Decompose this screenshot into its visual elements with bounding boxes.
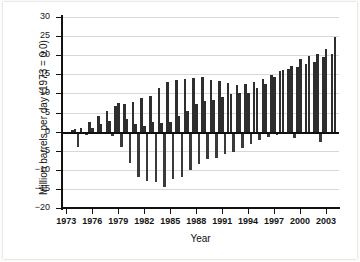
bar: [215, 132, 218, 158]
x-tick-mark: [300, 209, 301, 214]
y-tick-label: 10: [24, 88, 50, 97]
bar: [155, 132, 158, 183]
bar: [134, 124, 137, 132]
bar: [198, 132, 201, 164]
bar: [299, 59, 302, 131]
bar: [256, 88, 259, 131]
y-tick-label-wrap: 5: [22, 108, 50, 117]
bar: [137, 132, 140, 177]
bar: [163, 132, 166, 187]
x-tick-mark: [118, 209, 119, 214]
bar: [224, 132, 227, 155]
bar: [108, 121, 111, 132]
y-tick-label: 25: [24, 31, 50, 40]
zero-baseline: [62, 132, 339, 134]
y-tick-label: −20: [24, 203, 50, 212]
bar: [241, 132, 244, 148]
gridline: [62, 189, 339, 190]
bar: [129, 132, 132, 163]
gridline: [62, 17, 339, 18]
x-tick-mark: [170, 209, 171, 214]
y-tick-label: 15: [24, 69, 50, 78]
bar: [126, 119, 129, 132]
chart-figure: Million barrels per day (1973 = 0.0) 302…: [0, 0, 360, 262]
bar: [169, 122, 172, 132]
bar: [204, 101, 207, 131]
gridline: [62, 36, 339, 37]
bar: [247, 93, 250, 132]
bar: [160, 123, 163, 132]
bar: [100, 124, 103, 132]
bar: [206, 132, 209, 160]
bar: [212, 100, 215, 131]
bar: [230, 94, 233, 131]
bar: [195, 104, 198, 132]
bar: [334, 37, 337, 132]
y-tick-label: 0: [24, 127, 50, 136]
y-tick-label-wrap: 10: [22, 88, 50, 97]
x-tick-mark: [144, 209, 145, 214]
y-tick-label: −15: [24, 184, 50, 193]
y-tick-label: 5: [24, 108, 50, 117]
x-axis-line: [61, 207, 340, 209]
bar: [264, 84, 267, 132]
y-tick-label-wrap: 25: [22, 31, 50, 40]
y-tick-label: −10: [24, 165, 50, 174]
bar: [152, 122, 155, 132]
bar: [186, 111, 189, 131]
bar: [290, 66, 293, 131]
y-tick-label-wrap: −15: [22, 184, 50, 193]
gridline: [62, 151, 339, 152]
bar: [178, 116, 181, 132]
x-axis-label: Year: [62, 233, 339, 244]
y-tick-label-wrap: −20: [22, 203, 50, 212]
bar: [146, 132, 149, 182]
bar: [117, 103, 120, 132]
bar: [282, 70, 285, 131]
bar: [232, 132, 235, 153]
gridline: [62, 170, 339, 171]
x-tick-mark: [66, 209, 67, 214]
y-tick-label-wrap: 0: [22, 127, 50, 136]
y-axis-line: [61, 15, 63, 210]
bar: [189, 132, 192, 170]
bar: [308, 56, 311, 132]
y-tick-label: 20: [24, 50, 50, 59]
y-tick-label-wrap: 20: [22, 50, 50, 59]
bar: [325, 49, 328, 131]
y-tick-label: 30: [24, 12, 50, 21]
bar: [221, 97, 224, 131]
y-tick-label-wrap: −10: [22, 165, 50, 174]
bar: [172, 132, 175, 179]
y-tick-label-wrap: 30: [22, 12, 50, 21]
bar: [238, 93, 241, 132]
y-tick-label-wrap: −5: [22, 146, 50, 155]
gridline: [62, 55, 339, 56]
bar: [181, 132, 184, 178]
x-tick-mark: [248, 209, 249, 214]
x-tick-mark: [196, 209, 197, 214]
x-tick-mark: [222, 209, 223, 214]
x-tick-mark: [92, 209, 93, 214]
y-tick-label-wrap: 15: [22, 69, 50, 78]
x-tick-label: 2003: [308, 216, 344, 226]
x-tick-mark: [274, 209, 275, 214]
y-tick-label: −5: [24, 146, 50, 155]
bar: [273, 77, 276, 132]
x-tick-mark: [326, 209, 327, 214]
bar: [316, 54, 319, 132]
